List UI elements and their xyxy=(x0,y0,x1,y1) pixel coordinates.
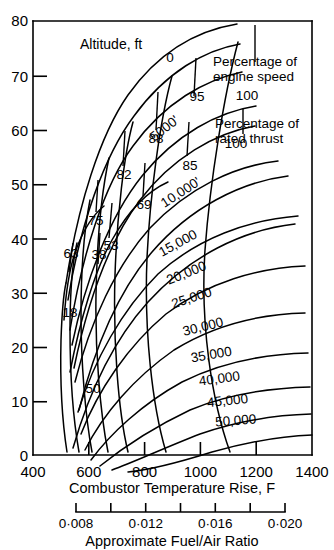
y-axis-ticks xyxy=(33,76,47,402)
fuel-label-0016: 0·016 xyxy=(198,516,233,531)
y-label-10: 10 xyxy=(11,393,28,410)
altitude-contour-45000 xyxy=(112,414,311,470)
altitude-label-5000: 5000' xyxy=(147,113,182,145)
curve-label-speed-69: 69 xyxy=(136,197,151,212)
engine-speed-caption: Percentage of engine speed xyxy=(213,54,297,84)
x-axis-labels: 400 600 800 1000 1200 1400 xyxy=(20,463,328,480)
altitude-label-10000: 10,000' xyxy=(158,174,203,210)
curve-label-speed-100: 100 xyxy=(236,88,259,103)
engine-speed-curve-69 xyxy=(96,158,109,452)
altitude-label-50000: 50,000 xyxy=(215,412,257,430)
curve-label-thrust-82: 82 xyxy=(116,167,131,182)
curve-label-thrust-50: 50 xyxy=(85,381,100,396)
altitude-label-25000: 25,000 xyxy=(170,284,214,311)
fuel-label-0012: 0·012 xyxy=(128,516,163,531)
curve-label-thrust-100: 100 xyxy=(225,136,248,151)
engine-speed-caption-line2: engine speed xyxy=(213,69,294,84)
y-label-40: 40 xyxy=(11,231,28,248)
leader-53 xyxy=(109,203,112,238)
fuel-label-0008: 0·008 xyxy=(59,516,94,531)
fuel-label-0020: 0·020 xyxy=(268,516,303,531)
y-axis-labels: 80 70 60 50 40 30 20 10 0 xyxy=(11,12,28,464)
rated-thrust-curve-0 xyxy=(66,24,237,283)
leader-69 xyxy=(143,163,145,196)
plot-title: Altitude, ft xyxy=(80,36,142,52)
altitude-label-40000: 40,000 xyxy=(198,368,241,389)
x-label-1400: 1400 xyxy=(295,463,328,480)
curve-label-thrust-0: 0 xyxy=(166,50,174,65)
y-label-50: 50 xyxy=(11,176,28,193)
y-label-30: 30 xyxy=(11,285,28,302)
x-label-600: 600 xyxy=(76,463,101,480)
rated-thrust-caption-line1: Percentage of xyxy=(215,116,299,131)
chart-canvas: 80 70 60 50 40 30 20 10 0 400 600 800 10… xyxy=(0,0,334,550)
fuel-air-axis: 0·008 0·012 0·016 0·020 xyxy=(59,503,303,531)
altitude-label-45000: 45,000 xyxy=(206,391,249,410)
x-axis-title: Combustor Temperature Rise, F xyxy=(69,480,275,496)
leader-75 xyxy=(96,180,98,212)
x-axis-ticks xyxy=(89,442,256,455)
y-label-60: 60 xyxy=(11,122,28,139)
curve-label-thrust-63: 63 xyxy=(63,246,78,261)
engine-speed-caption-line1: Percentage of xyxy=(213,54,297,69)
fuel-axis-title: Approximate Fuel/Air Ratio xyxy=(85,533,258,549)
y-label-20: 20 xyxy=(11,339,28,356)
x-label-400: 400 xyxy=(20,463,45,480)
x-label-1200: 1200 xyxy=(240,463,273,480)
y-label-0: 0 xyxy=(20,447,28,464)
curve-label-speed-95: 95 xyxy=(189,89,204,104)
y-label-70: 70 xyxy=(11,68,28,85)
leader-85 xyxy=(187,122,189,156)
curve-label-speed-18: 18 xyxy=(62,305,77,320)
curve-label-thrust-75: 75 xyxy=(88,213,103,228)
curve-label-thrust-85: 85 xyxy=(182,158,197,173)
chart-figure: 80 70 60 50 40 30 20 10 0 400 600 800 10… xyxy=(0,0,334,550)
altitude-label-35000: 35,000 xyxy=(190,344,233,366)
y-label-80: 80 xyxy=(11,12,28,29)
x-label-1000: 1000 xyxy=(184,463,217,480)
altitude-contour-labels: 5000' 10,000' 15,000 20,000 25,000 30,00… xyxy=(147,113,257,430)
altitude-label-15000: 15,000 xyxy=(156,226,199,259)
curve-label-speed-38: 38 xyxy=(91,247,106,262)
